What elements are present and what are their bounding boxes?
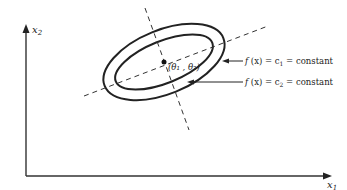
- y-axis-arrow-icon: [23, 24, 30, 33]
- contour-label-c1: f (x) = c1 = constant: [244, 56, 334, 67]
- axes: [23, 24, 333, 180]
- leader-arrow-c1-icon: [222, 59, 229, 64]
- contour-label-c2: f (x) = c2 = constant: [244, 77, 334, 88]
- center-point: [162, 60, 167, 65]
- contour-diagram: x2 x1 (θ₁ , θ₂) f (x) = c1 = constant f …: [0, 0, 347, 190]
- y-axis-label: x2: [32, 24, 43, 37]
- center-label: (θ₁ , θ₂): [168, 62, 200, 72]
- x-axis-label: x1: [327, 179, 337, 190]
